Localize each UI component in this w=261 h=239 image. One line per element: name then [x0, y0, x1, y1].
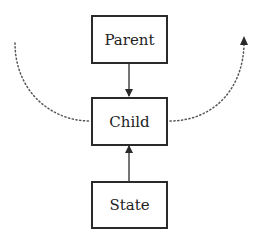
right-dotted-arc — [170, 42, 244, 121]
child-node: Child — [91, 97, 168, 146]
state-node: State — [91, 181, 168, 229]
parent-label: Parent — [104, 31, 154, 49]
right-arc-arrowhead — [240, 36, 248, 45]
parent-node: Parent — [91, 15, 168, 64]
state-label: State — [109, 196, 149, 214]
child-label: Child — [109, 113, 149, 131]
left-dotted-arc — [15, 43, 90, 121]
